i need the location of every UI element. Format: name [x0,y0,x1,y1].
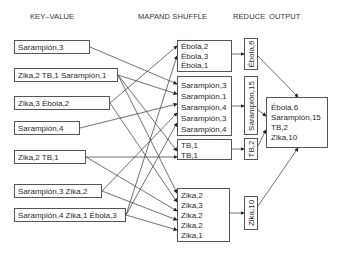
shuffle-box-tb: TB,1 TB,1 [177,139,232,160]
reduce-text: Ébola,6 [247,40,256,67]
input-text: Sarampión,3 Zika,2 [18,187,98,197]
shuffle-box-zika: Zika,2 Zika,3 Zika,2 Zika,2 Zika,1 [177,188,230,242]
shuffle-box-sarampion: Sarampión,3 Sarampión,1 Sarampión,4 Sara… [177,76,232,136]
input-text: Zika,2 TB,1 Sarampión,1 [18,71,114,81]
shuffle-item: Ébola,3 [181,52,228,62]
shuffle-item: Zika,1 [181,231,226,241]
header-reduce: REDUCE [233,12,265,21]
input-box: Sarampión,4 [14,121,80,135]
reduce-text: Sarampión,15 [247,81,256,131]
header-key-value: KEY–VALUE [30,12,74,21]
input-box: Zika,2 TB,1 [14,150,86,164]
shuffle-item: Sarampión,4 [181,124,228,135]
output-item: TB,2 [271,123,323,133]
reduce-text: TB,2 [247,141,256,158]
input-text: Sarampión,4 Zika,1 Ébola,3 [18,211,122,221]
shuffle-item: TB,1 [181,151,228,161]
shuffle-item: Zika,3 [181,201,226,211]
reduce-box-tb: TB,2 [244,138,258,160]
input-text: Zika,3 Ébola,2 [18,99,106,109]
shuffle-box-ebola: Ébola,2 Ébola,3 Ébola,1 [177,40,232,72]
shuffle-item: Zika,2 [181,211,226,221]
input-text: Zika,2 TB,1 [18,153,82,163]
shuffle-item: Sarampión,4 [181,102,228,113]
reduce-text: Zika,10 [247,200,256,226]
output-box: Ébola,6 Sarampión,15 TB,2 Zika,10 [266,97,328,148]
reduce-box-ebola: Ébola,6 [244,38,258,70]
shuffle-item: Sarampión,1 [181,91,228,102]
shuffle-item: Zika,2 [181,221,226,231]
input-box: Sarampión,3 Zika,2 [14,184,102,198]
shuffle-item: Sarampión,3 [181,80,228,91]
input-text: Sarampión,3 [18,43,86,53]
shuffle-item: Ébola,2 [181,42,228,52]
reduce-box-zika: Zika,10 [244,196,258,230]
input-text: Sarampión,4 [18,124,76,134]
shuffle-item: Sarampión,3 [181,113,228,124]
input-box: Zika,2 TB,1 Sarampión,1 [14,68,118,82]
shuffle-item: Ébola,1 [181,61,228,71]
output-item: Sarampión,15 [271,113,323,123]
input-box: Sarampión,4 Zika,1 Ébola,3 [14,208,126,222]
header-output: OUTPUT [269,12,300,21]
header-map-shuffle: MAPAND SHUFFLE [138,12,207,21]
input-box: Zika,3 Ébola,2 [14,96,110,110]
output-item: Zika,10 [271,133,323,143]
reduce-box-sarampion: Sarampión,15 [244,76,258,135]
shuffle-item: TB,1 [181,141,228,151]
output-item: Ébola,6 [271,103,323,113]
input-box: Sarampión,3 [14,40,90,54]
shuffle-item: Zika,2 [181,191,226,201]
